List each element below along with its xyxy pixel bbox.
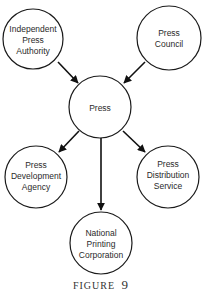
node-national-printing-corporation: National Printing Corporation <box>70 212 132 274</box>
node-press-development-agency: Press Development Agency <box>5 146 67 208</box>
node-independent-press-authority: Independent Press Authority <box>3 9 63 69</box>
node-label-line: Press <box>157 159 179 169</box>
node-label-line: Press <box>25 160 47 170</box>
node-label-line: Service <box>154 181 183 191</box>
node-label-line: Corporation <box>79 250 124 260</box>
edge-council-to-press <box>124 62 145 83</box>
node-label-line: National <box>85 228 116 238</box>
caption-word: FIGURE <box>73 280 115 291</box>
node-label-line: Press <box>89 103 111 113</box>
node-label-line: Development <box>11 171 62 181</box>
edge-press-to-development <box>59 131 79 152</box>
node-label-line: Council <box>155 39 183 49</box>
edge-press-to-distribution <box>123 131 145 152</box>
edge-authority-to-press <box>58 62 78 83</box>
node-press: Press <box>69 76 131 138</box>
node-label-line: Press <box>22 35 44 45</box>
node-label-line: Independent <box>9 24 57 34</box>
diagram-canvas: Independent Press Authority Press Counci… <box>0 0 202 291</box>
node-press-council: Press Council <box>137 6 201 70</box>
node-label-line: Distribution <box>147 170 190 180</box>
node-label-line: Printing <box>87 239 116 249</box>
figure-caption: FIGURE 9 <box>73 277 129 291</box>
caption-number: 9 <box>122 277 130 291</box>
node-press-distribution-service: Press Distribution Service <box>137 146 199 208</box>
node-label-line: Agency <box>22 182 51 192</box>
node-label-line: Authority <box>16 46 50 56</box>
node-label-line: Press <box>158 28 180 38</box>
